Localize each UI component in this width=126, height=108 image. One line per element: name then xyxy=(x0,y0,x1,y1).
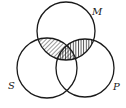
label-p: P xyxy=(112,81,120,92)
venn-diagram: M S P xyxy=(0,0,126,108)
label-m: M xyxy=(91,6,103,17)
label-s: S xyxy=(8,80,15,91)
